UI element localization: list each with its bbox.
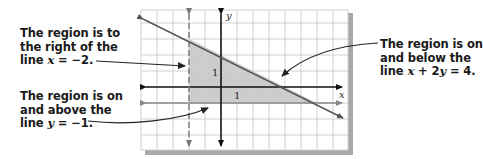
annotation-bottom: The region is on and above the line y = … — [20, 90, 123, 131]
text: = −1. — [54, 116, 93, 130]
x-axis-label: x — [339, 89, 345, 100]
annotation-left-line2: the right of the — [20, 41, 120, 55]
annotation-bottom-line3: line y = −1. — [20, 117, 123, 131]
y-tick-label-1: 1 — [212, 67, 218, 78]
annotation-right-line1: The region is on — [380, 38, 483, 52]
annotation-bottom-line2: and above the — [20, 104, 123, 118]
annotation-bottom-line1: The region is on — [20, 90, 123, 104]
var: y — [439, 64, 446, 78]
text: line — [20, 116, 47, 130]
annotation-left-line1: The region is to — [20, 27, 120, 41]
graph-shadow-bottom — [145, 150, 353, 155]
annotation-right: The region is on and below the line x + … — [380, 38, 483, 79]
text: + 2 — [414, 64, 439, 78]
text: = −2. — [54, 53, 93, 67]
graph-shadow-right — [348, 13, 353, 155]
x-tick-label-1: 1 — [234, 90, 240, 101]
text: line — [20, 53, 47, 67]
y-axis-label: y — [225, 10, 232, 21]
annotation-left-line3: line x = −2. — [20, 54, 120, 68]
text: line — [380, 64, 407, 78]
annotation-right-line2: and below the — [380, 52, 483, 66]
text: = 4. — [446, 64, 476, 78]
annotation-left: The region is to the right of the line x… — [20, 27, 120, 68]
annotation-right-line3: line x + 2y = 4. — [380, 65, 483, 79]
var: y — [47, 116, 54, 130]
